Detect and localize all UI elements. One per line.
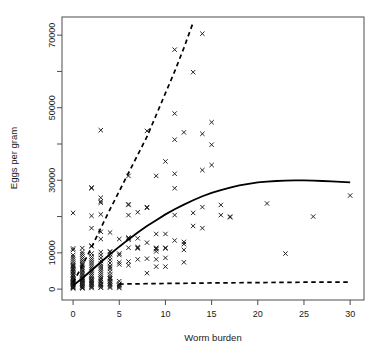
data-point bbox=[163, 232, 167, 236]
y-axis-ticks bbox=[57, 35, 62, 289]
data-point bbox=[163, 246, 167, 250]
data-point bbox=[228, 215, 232, 219]
data-point bbox=[154, 174, 158, 178]
data-point bbox=[126, 202, 130, 206]
data-point bbox=[191, 224, 195, 228]
data-point bbox=[228, 214, 232, 218]
x-tick-label: 30 bbox=[345, 309, 355, 319]
data-point bbox=[209, 120, 213, 124]
y-tick-label: 30000 bbox=[47, 168, 57, 193]
data-point bbox=[200, 31, 204, 35]
y-tick-label: 0 bbox=[47, 287, 57, 292]
data-point bbox=[348, 193, 352, 197]
y-axis-title: Eggs per gram bbox=[8, 127, 19, 189]
data-point bbox=[182, 260, 186, 264]
data-point bbox=[71, 211, 75, 215]
data-point bbox=[200, 205, 204, 209]
data-point bbox=[172, 172, 176, 176]
lower-confidence-curve bbox=[119, 282, 350, 284]
data-point bbox=[126, 203, 130, 207]
data-point bbox=[172, 137, 176, 141]
data-point bbox=[154, 264, 158, 268]
data-point bbox=[99, 250, 103, 254]
data-point bbox=[172, 186, 176, 190]
x-axis-title: Worm burden bbox=[184, 332, 241, 343]
data-point bbox=[172, 238, 176, 242]
x-tick-label: 0 bbox=[71, 309, 76, 319]
x-tick-label: 10 bbox=[160, 309, 170, 319]
data-point bbox=[311, 214, 315, 218]
data-point bbox=[89, 186, 93, 190]
data-point bbox=[136, 236, 140, 240]
data-point bbox=[200, 132, 204, 136]
data-point bbox=[89, 226, 93, 230]
data-point bbox=[154, 257, 158, 261]
data-point bbox=[89, 214, 93, 218]
data-point bbox=[265, 201, 269, 205]
data-point bbox=[182, 130, 186, 134]
data-point bbox=[200, 226, 204, 230]
data-point bbox=[99, 212, 103, 216]
data-point bbox=[145, 271, 149, 275]
data-point bbox=[145, 240, 149, 244]
data-point bbox=[154, 232, 158, 236]
data-point bbox=[117, 237, 121, 241]
data-point bbox=[209, 143, 213, 147]
upper-confidence-curve bbox=[73, 22, 193, 282]
fitted-mean-curve bbox=[73, 180, 350, 285]
data-point bbox=[283, 251, 287, 255]
data-point bbox=[136, 257, 140, 261]
data-point bbox=[200, 168, 204, 172]
data-point bbox=[172, 213, 176, 217]
x-tick-label: 20 bbox=[253, 309, 263, 319]
data-point bbox=[219, 213, 223, 217]
data-point bbox=[191, 211, 195, 215]
data-point bbox=[89, 185, 93, 189]
data-point bbox=[108, 230, 112, 234]
data-point bbox=[163, 159, 167, 163]
fitted-curves bbox=[73, 22, 350, 285]
data-point bbox=[80, 246, 84, 250]
data-point bbox=[126, 259, 130, 263]
data-point bbox=[163, 246, 167, 250]
y-axis-tick-labels: 010000300005000070000 bbox=[47, 23, 57, 292]
data-point bbox=[145, 205, 149, 209]
x-tick-label: 5 bbox=[117, 309, 122, 319]
x-tick-label: 25 bbox=[299, 309, 309, 319]
data-point bbox=[182, 248, 186, 252]
data-point bbox=[172, 111, 176, 115]
data-point bbox=[191, 70, 195, 74]
data-point bbox=[126, 246, 130, 250]
data-point bbox=[99, 128, 103, 132]
x-axis-ticks bbox=[73, 300, 350, 305]
data-point bbox=[136, 210, 140, 214]
data-point bbox=[145, 206, 149, 210]
x-tick-label: 15 bbox=[207, 309, 217, 319]
y-tick-label: 70000 bbox=[47, 23, 57, 48]
x-axis-tick-labels: 051015202530 bbox=[71, 309, 356, 319]
data-point bbox=[145, 256, 149, 260]
data-point bbox=[126, 213, 130, 217]
data-point bbox=[172, 47, 176, 51]
scatter-plot: 010000300005000070000 051015202530 Worm … bbox=[0, 0, 384, 355]
data-point bbox=[209, 163, 213, 167]
y-tick-label: 50000 bbox=[47, 95, 57, 120]
chart-container: 010000300005000070000 051015202530 Worm … bbox=[0, 0, 384, 355]
data-point bbox=[136, 246, 140, 250]
y-tick-label: 10000 bbox=[47, 240, 57, 265]
data-point bbox=[99, 195, 103, 199]
data-point bbox=[99, 237, 103, 241]
data-point bbox=[163, 264, 167, 268]
data-point bbox=[163, 256, 167, 260]
data-point bbox=[219, 203, 223, 207]
data-point bbox=[154, 246, 158, 250]
